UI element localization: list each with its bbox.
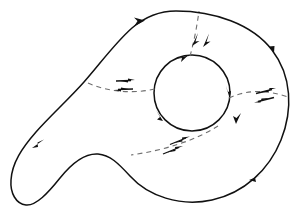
- outer-arrow-left-icon: [32, 140, 44, 149]
- cut-bottom-group: [131, 126, 218, 155]
- cut-top-line: [190, 11, 199, 56]
- figure-container: Annular contour with four connecting cut…: [0, 0, 303, 222]
- outer-boundary-group: [11, 11, 289, 205]
- inner-circle-curve: [154, 55, 230, 131]
- cut-left-group: [88, 79, 155, 92]
- outer-arrow-top-left-icon: [134, 18, 145, 27]
- cut-top-arrow-b-icon: [203, 34, 211, 48]
- inner-arrow-bottom-icon: [233, 113, 241, 124]
- cut-right-arrow-left-shaft: [258, 98, 274, 102]
- cut-bottom-arrow-a-shaft: [170, 138, 186, 145]
- cut-right-group: [229, 88, 288, 103]
- cut-top-arrow-a-icon: [192, 33, 200, 46]
- contour-diagram: [0, 0, 303, 222]
- inner-circle-group: [154, 55, 241, 131]
- cut-left-arrow-right-shaft: [116, 81, 131, 82]
- cut-left-arrow-left-shaft: [118, 89, 133, 90]
- cut-top-group: [190, 11, 211, 56]
- cut-left-line: [88, 83, 155, 92]
- outer-boundary-curve: [11, 11, 289, 205]
